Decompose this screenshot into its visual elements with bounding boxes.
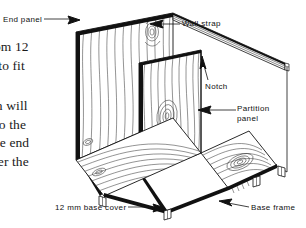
arrowhead-end-panel bbox=[68, 16, 80, 24]
callout-label-base-cover: 12 mm base cover bbox=[55, 203, 126, 213]
callout-label-base-frame: Base frame bbox=[251, 203, 295, 213]
body-text-line-6: ver the bbox=[0, 155, 29, 169]
callout-label-wall-strap: Wall strap bbox=[182, 19, 221, 29]
callout-label-end-panel: End panel bbox=[3, 15, 42, 25]
callout-label-partition-panel-line2: panel bbox=[237, 114, 270, 124]
callout-label-partition-panel-line1: Partition bbox=[237, 104, 270, 114]
body-text-line-5: ne end bbox=[0, 136, 29, 150]
body-text-line-2: t to fit bbox=[0, 59, 25, 73]
body-text-line-1: om 12 bbox=[0, 40, 29, 54]
callout-label-partition-panel: Partition panel bbox=[237, 104, 270, 123]
figure-page: om 12 t to fit th will to the ne end ver… bbox=[0, 0, 306, 228]
base-cover-front-edge-right bbox=[167, 186, 229, 214]
end-panel-left-edge bbox=[76, 32, 80, 161]
callout-label-notch: Notch bbox=[205, 82, 228, 92]
body-text-line-3: th will bbox=[0, 99, 28, 113]
arrowhead-base-frame bbox=[219, 199, 232, 206]
body-text-line-4: to the bbox=[0, 118, 26, 132]
